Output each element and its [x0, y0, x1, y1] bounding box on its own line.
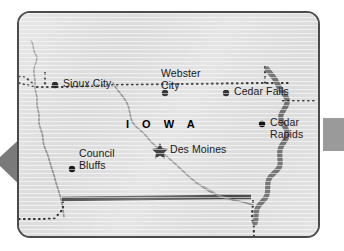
- city-label-line: Webster: [161, 67, 201, 79]
- iowa-map-figure: I O W A Sioux City Webster City Cedar Fa…: [0, 0, 344, 251]
- map-frame: I O W A Sioux City Webster City Cedar Fa…: [17, 11, 320, 238]
- city-label-line: Cedar: [270, 116, 299, 128]
- city-label-cedar-falls: Cedar Falls: [234, 86, 289, 98]
- right-edge-tab: [323, 118, 344, 151]
- marker-cedar-falls: [223, 90, 229, 96]
- city-label-cedar-rapids: Cedar Rapids: [270, 117, 320, 140]
- marker-cedar-rapids: [259, 121, 265, 127]
- city-label-line: Bluffs: [79, 159, 106, 171]
- city-label-des-moines: Des Moines: [170, 144, 226, 156]
- state-name-label: I O W A: [126, 118, 200, 130]
- city-label-line: Council: [79, 147, 115, 159]
- marker-council-bluffs: [69, 166, 75, 172]
- city-label-sioux-city: Sioux City: [63, 78, 111, 90]
- city-label-council-bluffs: Council Bluffs: [79, 148, 131, 171]
- city-label-line: Rapids: [270, 128, 303, 140]
- marker-sioux-city: [52, 82, 58, 88]
- city-label-webster-city: Webster City: [161, 68, 213, 91]
- city-label-line: City: [161, 79, 179, 91]
